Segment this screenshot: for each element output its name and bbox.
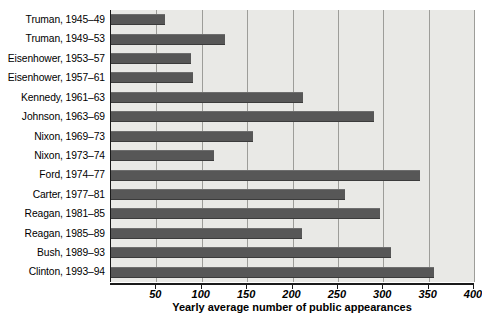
x-axis-tick-label: 200 xyxy=(282,288,300,300)
bar xyxy=(111,92,303,103)
bar xyxy=(111,34,225,45)
category-label: Nixon, 1973–74 xyxy=(0,146,108,165)
category-label: Eisenhower, 1957–61 xyxy=(0,68,108,87)
category-label: Nixon, 1969–73 xyxy=(0,127,108,146)
bar-row xyxy=(111,185,474,204)
category-label: Ford, 1974–77 xyxy=(0,165,108,184)
bar-row xyxy=(111,243,474,262)
bar-series xyxy=(111,10,474,282)
bar xyxy=(111,170,420,181)
category-label: Reagan, 1985–89 xyxy=(0,224,108,243)
category-label: Truman, 1945–49 xyxy=(0,10,108,29)
category-label: Carter, 1977–81 xyxy=(0,185,108,204)
bar xyxy=(111,72,193,83)
x-axis-tick-label: 350 xyxy=(418,288,436,300)
x-axis-title: Yearly average number of public appearan… xyxy=(110,301,474,313)
bar xyxy=(111,131,253,142)
bar xyxy=(111,111,374,122)
bar-row xyxy=(111,88,474,107)
bar xyxy=(111,150,214,161)
bar-row xyxy=(111,68,474,87)
x-axis-tick-labels: 50100150200250300350400 xyxy=(110,288,474,302)
bar-row xyxy=(111,204,474,223)
bar-row xyxy=(111,29,474,48)
bar xyxy=(111,208,380,219)
bar-chart-figure: Truman, 1945–49Truman, 1949–53Eisenhower… xyxy=(0,0,482,321)
plot-area xyxy=(110,10,474,282)
bar-row xyxy=(111,224,474,243)
bar xyxy=(111,228,302,239)
category-label: Reagan, 1981–85 xyxy=(0,204,108,223)
bar xyxy=(111,14,165,25)
bar-row xyxy=(111,107,474,126)
x-axis-tick-label: 50 xyxy=(149,288,161,300)
bar-row xyxy=(111,146,474,165)
x-axis-tick-label: 150 xyxy=(237,288,255,300)
x-axis-tick-label: 100 xyxy=(192,288,210,300)
bar-row xyxy=(111,49,474,68)
category-label: Clinton, 1993–94 xyxy=(0,262,108,281)
x-axis-tick-label: 300 xyxy=(373,288,391,300)
bar-row xyxy=(111,262,474,281)
category-label: Eisenhower, 1953–57 xyxy=(0,49,108,68)
bar xyxy=(111,267,434,278)
category-label: Bush, 1989–93 xyxy=(0,243,108,262)
bar xyxy=(111,189,345,200)
gridline xyxy=(474,10,475,282)
category-label: Truman, 1949–53 xyxy=(0,29,108,48)
x-axis-tick-label: 250 xyxy=(328,288,346,300)
bar-row xyxy=(111,10,474,29)
bar-row xyxy=(111,165,474,184)
bar-row xyxy=(111,127,474,146)
bar xyxy=(111,53,191,64)
x-axis-tick-label: 400 xyxy=(464,288,482,300)
category-axis-labels: Truman, 1945–49Truman, 1949–53Eisenhower… xyxy=(0,10,108,282)
category-label: Johnson, 1963–69 xyxy=(0,107,108,126)
bar xyxy=(111,247,391,258)
category-label: Kennedy, 1961–63 xyxy=(0,88,108,107)
